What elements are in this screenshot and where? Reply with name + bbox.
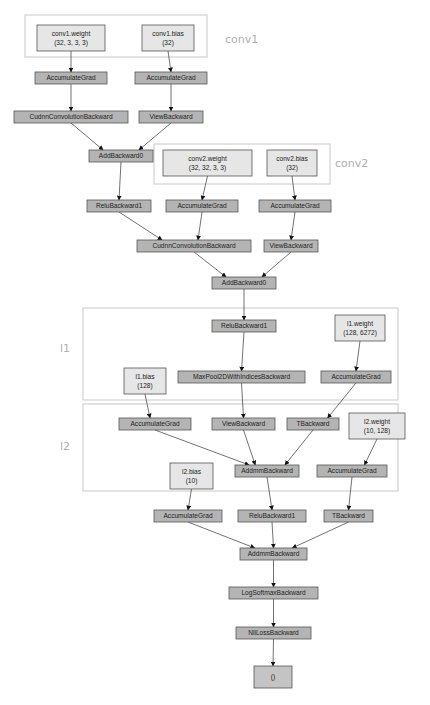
autograd-graph: conv1conv2l1l2 conv1.weight(32, 3, 3, 3)… xyxy=(0,0,430,705)
node-output: () xyxy=(254,666,292,688)
edge-acc6-to-addmm1 xyxy=(155,430,249,465)
node-shape: (32, 3, 3, 3) xyxy=(54,39,88,47)
node-acc1: AccumulateGrad xyxy=(35,72,107,84)
node-maxpool: MaxPool2DWithIndicesBackward xyxy=(178,371,305,383)
node-label: AccumulateGrad xyxy=(327,467,376,474)
node-acc7: AccumulateGrad xyxy=(317,465,387,477)
node-label: AccumulateGrad xyxy=(163,512,212,519)
node-shape: (10) xyxy=(186,477,198,485)
node-label: l2.weight xyxy=(364,418,390,426)
node-shape: (32, 32, 3, 3) xyxy=(189,164,226,172)
node-l1-bias: l1.bias(128) xyxy=(124,368,166,394)
node-label: ViewBackward xyxy=(269,242,312,249)
edge-acc8-to-addmm2 xyxy=(188,522,255,548)
edge-view2-to-add2 xyxy=(262,252,291,277)
edge-t2-to-addmm2 xyxy=(292,522,348,548)
edge-view3-to-addmm1 xyxy=(244,430,256,465)
node-relu2: ReluBackward1 xyxy=(212,320,276,332)
node-label: CudnnConvolutionBackward xyxy=(152,242,236,249)
node-acc6: AccumulateGrad xyxy=(119,418,191,430)
node-shape: (128, 6272) xyxy=(343,329,377,337)
node-acc2: AccumulateGrad xyxy=(135,72,207,84)
edge-acc7-to-t2 xyxy=(349,477,353,510)
edge-cudnn2-to-add2 xyxy=(194,252,226,277)
node-shape: (10, 128) xyxy=(364,427,390,435)
node-conv1-weight: conv1.weight(32, 3, 3, 3) xyxy=(37,25,105,51)
node-acc5: AccumulateGrad xyxy=(321,371,391,383)
edge-l1-weight-to-acc5 xyxy=(356,341,360,371)
node-label: LogSoftmaxBackward xyxy=(241,589,305,597)
node-t1: TBackward xyxy=(287,418,339,430)
node-view3: ViewBackward xyxy=(212,418,275,430)
edge-l2-bias-to-acc8 xyxy=(188,489,192,510)
node-acc4: AccumulateGrad xyxy=(259,200,331,212)
node-label: ReluBackward1 xyxy=(96,202,143,209)
node-label: TBackward xyxy=(332,512,365,519)
node-l1-weight: l1.weight(128, 6272) xyxy=(335,315,385,341)
node-label: conv1.bias xyxy=(152,30,184,37)
node-label: AccumulateGrad xyxy=(177,202,226,209)
node-label: l2.bias xyxy=(182,468,202,475)
node-label: AccumulateGrad xyxy=(270,202,319,209)
node-label: MaxPool2DWithIndicesBackward xyxy=(193,373,290,380)
node-conv2-bias: conv2.bias(32) xyxy=(267,150,317,176)
edge-relu1-to-cudnn2 xyxy=(119,212,162,240)
node-label: conv2.weight xyxy=(188,155,227,163)
node-label: AccumulateGrad xyxy=(130,420,179,427)
node-conv2-weight: conv2.weight(32, 32, 3, 3) xyxy=(163,150,252,176)
edge-conv2-weight-to-acc3 xyxy=(202,176,208,200)
edge-nllloss-to-output xyxy=(273,639,274,666)
cluster-label-conv2: conv2 xyxy=(335,157,368,170)
node-label: AccumulateGrad xyxy=(146,74,195,81)
node-label: AddmmBackward xyxy=(241,467,293,474)
node-label: ViewBackward xyxy=(149,113,192,120)
edge-conv2-bias-to-acc4 xyxy=(292,176,295,200)
node-label: AccumulateGrad xyxy=(46,74,95,81)
edge-relu2-to-maxpool xyxy=(242,332,245,371)
edge-view1-to-add1 xyxy=(139,123,171,150)
node-addmm1: AddmmBackward xyxy=(235,465,299,477)
node-cudnn1: CudnnConvolutionBackward xyxy=(14,111,128,123)
node-addmm2: AddmmBackward xyxy=(240,548,307,560)
node-t2: TBackward xyxy=(324,510,373,522)
node-label: ReluBackward1 xyxy=(249,512,296,519)
node-nllloss: NllLossBackward xyxy=(236,627,311,639)
node-label: AddmmBackward xyxy=(248,550,300,557)
node-l2-bias: l2.bias(10) xyxy=(170,463,213,489)
node-conv1-bias: conv1.bias(32) xyxy=(142,25,194,51)
node-relu1: ReluBackward1 xyxy=(87,200,151,212)
node-cudnn2: CudnnConvolutionBackward xyxy=(137,240,251,252)
node-label: AccumulateGrad xyxy=(331,373,380,380)
edge-add1-to-relu1 xyxy=(119,162,121,200)
edge-l1-bias-to-acc6 xyxy=(145,394,150,418)
node-label: conv2.bias xyxy=(276,155,308,162)
cluster-label-l2: l2 xyxy=(60,440,70,453)
node-shape: (32) xyxy=(286,164,298,172)
node-label: NllLossBackward xyxy=(248,629,299,636)
node-label: TBackward xyxy=(297,420,330,427)
node-l2-weight: l2.weight(10, 128) xyxy=(349,413,405,439)
node-label: () xyxy=(271,673,275,681)
edge-acc3-to-cudnn2 xyxy=(198,212,202,240)
cluster-label-l1: l1 xyxy=(60,342,70,355)
edge-relu3-to-addmm2 xyxy=(272,522,274,548)
node-label: conv1.weight xyxy=(52,30,91,38)
node-relu3: ReluBackward1 xyxy=(238,510,306,522)
node-acc3: AccumulateGrad xyxy=(166,200,238,212)
node-acc8: AccumulateGrad xyxy=(154,510,222,522)
edge-l2-weight-to-acc7 xyxy=(365,439,378,465)
node-label: l1.weight xyxy=(347,320,373,328)
edge-acc4-to-view2 xyxy=(291,212,295,240)
node-label: AddBackward0 xyxy=(99,152,144,159)
cluster-label-conv1: conv1 xyxy=(225,33,258,46)
edge-addmm1-to-relu3 xyxy=(267,477,272,510)
node-label: AddBackward0 xyxy=(222,279,267,286)
node-view1: ViewBackward xyxy=(139,111,203,123)
node-add2: AddBackward0 xyxy=(212,277,276,289)
node-label: CudnnConvolutionBackward xyxy=(29,113,113,120)
node-label: ReluBackward1 xyxy=(221,322,268,329)
node-label: l1.bias xyxy=(135,373,155,380)
node-shape: (128) xyxy=(137,382,152,390)
node-logsoftmax: LogSoftmaxBackward xyxy=(229,587,318,599)
edge-cudnn1-to-add1 xyxy=(71,123,103,150)
